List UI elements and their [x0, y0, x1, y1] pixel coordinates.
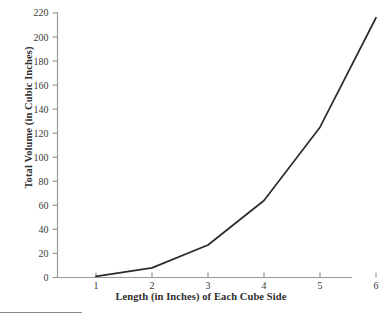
footer-rule — [0, 312, 82, 313]
y-tick-label: 180 — [34, 56, 49, 67]
x-tick-label: 5 — [318, 280, 323, 291]
y-tick-label: 80 — [39, 176, 49, 187]
x-axis-ticks: 123456 — [94, 273, 379, 292]
chart-figure: Total Volume (in Cubic Inches) Length (i… — [0, 0, 381, 320]
y-tick-label: 100 — [34, 152, 49, 163]
x-tick-label: 6 — [374, 280, 379, 291]
y-axis-ticks: 020406080100120140160180200220 — [34, 7, 58, 283]
x-tick-label: 4 — [262, 280, 267, 291]
y-tick-label: 20 — [39, 248, 49, 259]
x-tick-label: 2 — [150, 280, 155, 291]
volume-data-line — [96, 18, 376, 277]
y-tick-label: 140 — [34, 104, 49, 115]
x-tick-label: 1 — [94, 280, 99, 291]
y-tick-label: 120 — [34, 128, 49, 139]
y-tick-label: 0 — [44, 272, 49, 283]
y-tick-label: 200 — [34, 32, 49, 43]
y-tick-label: 220 — [34, 7, 49, 18]
y-tick-label: 60 — [39, 200, 49, 211]
y-tick-label: 40 — [39, 224, 49, 235]
x-tick-label: 3 — [206, 280, 211, 291]
y-tick-label: 160 — [34, 80, 49, 91]
line-chart-plot: 020406080100120140160180200220 123456 — [0, 0, 381, 320]
